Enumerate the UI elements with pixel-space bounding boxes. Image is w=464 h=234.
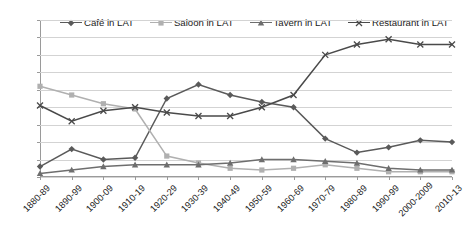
x-axis-label: 1940-49 [207,183,242,218]
data-point [100,156,106,162]
x-axis-label: 1990-99 [365,183,400,218]
x-axis-label: 2010-13 [429,183,464,218]
x-axis-tick [262,177,263,180]
x-axis-label: 1910-19 [112,183,147,218]
data-point [69,92,74,97]
x-axis-label: 1900-09 [80,183,115,218]
data-point [291,92,297,98]
x-axis-tick [294,177,295,180]
x-axis-label: 1970-79 [302,183,337,218]
x-axis-label: 1930-39 [175,183,210,218]
data-point [164,153,169,158]
data-point [68,146,74,152]
x-axis-label: 1980-89 [334,183,369,218]
data-point [417,137,423,143]
x-axis-tick [420,177,421,180]
data-point [354,166,359,171]
x-axis-label: 1890-99 [48,183,83,218]
data-point [37,102,43,108]
data-point [101,101,106,106]
x-axis-label: 1920-29 [143,183,178,218]
series-caf-in-lat [37,81,455,169]
x-axis-tick [325,177,326,180]
series-restaurant-in-lat [37,36,455,124]
data-point [385,144,391,150]
series-layer [40,20,452,177]
data-point [164,95,170,101]
x-axis-label: 1950-59 [239,183,274,218]
data-point [228,166,233,171]
data-point [449,139,455,145]
series-line [40,85,452,167]
data-point [291,166,296,171]
data-point [195,81,201,87]
x-axis-tick [389,177,390,180]
x-axis-label: 1880-89 [17,183,52,218]
x-axis-tick [103,177,104,180]
grid-line [40,177,452,178]
x-axis-tick [230,177,231,180]
x-axis-tick [167,177,168,180]
data-point [37,163,43,169]
data-point [354,149,360,155]
data-point [227,92,233,98]
x-axis-tick [40,177,41,180]
x-axis-tick [135,177,136,180]
x-axis-tick [72,177,73,180]
data-point [37,84,42,89]
data-point [132,155,138,161]
x-axis-tick [198,177,199,180]
data-point [259,167,264,172]
plot-area: 0%10%20%30%40%50%60%70%80%90%1880-891890… [40,20,452,177]
x-axis-tick [357,177,358,180]
x-axis-label: 1960-69 [270,183,305,218]
series-tavern-in-lat [37,156,455,176]
x-axis-tick [452,177,453,180]
x-axis-label: 2000-2009 [397,183,432,218]
